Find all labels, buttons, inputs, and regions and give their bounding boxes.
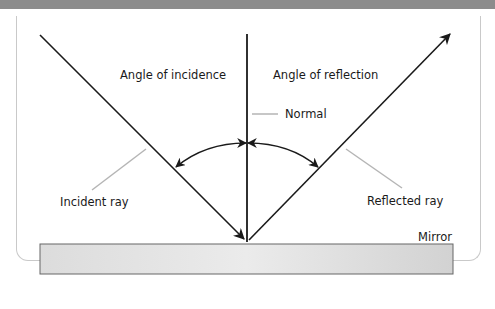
reflected-ray-label: Reflected ray: [367, 194, 444, 208]
mirror: [40, 244, 453, 274]
angle-of-incidence-label: Angle of incidence: [120, 68, 226, 82]
mirror-label: Mirror: [418, 230, 452, 244]
normal-label: Normal: [285, 107, 327, 121]
angle-of-reflection-arc: [248, 143, 318, 167]
incident-ray-label: Incident ray: [60, 195, 129, 209]
reflected-ray: [249, 34, 450, 240]
incident-ray-leader: [92, 149, 146, 190]
angle-of-incidence-arc: [176, 143, 246, 167]
reflection-diagram: Mirror Angle of incidence Angle of refle…: [0, 0, 495, 309]
angle-of-reflection-label: Angle of reflection: [273, 68, 378, 82]
reflected-ray-leader: [346, 149, 402, 188]
